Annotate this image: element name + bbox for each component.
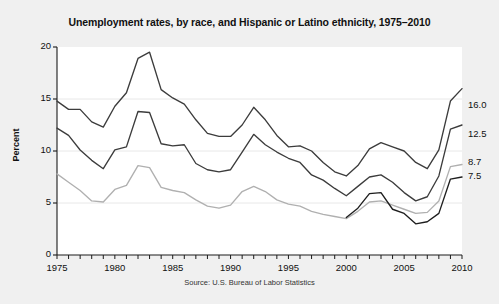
x-axis-minor-ticks: [57, 255, 462, 259]
axis-major-ticks: [53, 47, 57, 255]
plot-canvas: [0, 0, 499, 304]
source-note: Source: U.S. Bureau of Labor Statistics: [0, 278, 499, 287]
chart-figure: Unemployment rates, by race, and Hispani…: [0, 0, 499, 304]
